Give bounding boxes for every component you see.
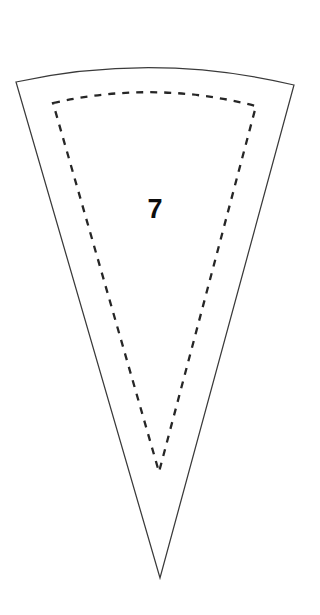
pattern-canvas: 7	[0, 0, 320, 615]
outer-cut-line-path	[16, 68, 294, 578]
sector-shape-svg: 7	[0, 0, 320, 615]
piece-number-label: 7	[147, 194, 162, 224]
